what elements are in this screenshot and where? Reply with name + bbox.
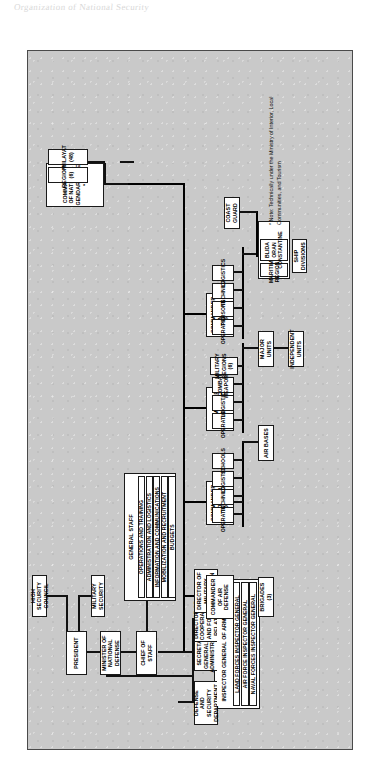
connector [234,401,243,403]
service-bus [183,183,185,653]
node-president[interactable]: PRESIDENT [66,631,87,675]
node-general-staff[interactable]: GENERAL STAFF [127,476,137,598]
connector [78,595,91,597]
footnote-text: Note: Technically under the Ministry of … [268,97,282,225]
general-staff-item[interactable]: INFORMATION AND COMMUNICATIONS [153,476,160,598]
inspector-general-item[interactable]: AIR FORCE INSPECTOR GENERAL [241,582,248,706]
general-staff-item[interactable]: ADMINISTRATION AND LOGISTICS [146,476,153,598]
node-major-units[interactable]: MAJOR UNITS [258,331,274,367]
connector [106,675,194,677]
connector [78,595,80,631]
connector [242,441,258,443]
connector [234,501,243,503]
node-military-regions[interactable]: MILITARY REGIONS (6) [210,357,238,375]
node-wilayat[interactable]: WILAYAT (48) [48,149,88,165]
connector [184,313,206,315]
scan-page-margin: Organization of National Security [0,0,380,26]
connector [158,651,184,653]
connector [178,701,193,703]
connector [234,289,243,291]
connector [146,601,148,631]
connector [234,325,243,327]
connector [184,501,206,503]
connector [234,459,243,461]
node-high-security-council[interactable]: HIGH SECURITY COUNCIL [32,575,47,617]
connector [104,183,128,185]
connector [234,419,243,421]
connector [184,407,206,409]
connector [234,495,243,497]
connector [234,307,243,309]
navy-item[interactable]: LOGISTICS [212,265,234,281]
node-ship-divisions[interactable]: SHIP DIVISIONS [292,239,307,273]
node-military-security[interactable]: MILITARY SECURITY [91,575,105,617]
connector [274,347,288,349]
node-maritime-regions-list[interactable]: BLIDA ORAN CONSTANTINE [260,239,288,261]
connector [128,183,184,185]
node-commander-of-air-defense[interactable]: COMMANDER OF AIR DEFENSE [206,575,234,619]
connector [120,651,136,653]
node-brigades[interactable]: BRIGADES (3) [258,577,274,617]
connector [234,383,243,385]
connector [104,163,106,185]
general-staff-item[interactable]: BUDGETS [168,476,175,598]
connector [234,271,243,273]
org-chart-figure: HIGH SECURITY COUNCIL PRESIDENT MILITARY… [27,50,353,750]
node-minister-of-national-defense[interactable]: MINISTER OF NATIONAL DEFENSE [100,631,121,675]
node-coast-guard[interactable]: COAST GUARD [224,197,240,229]
scan-margin-text: Organization of National Security [13,2,149,12]
connector [234,513,243,515]
inspector-general-item[interactable]: NAVAL FORCES INSPECTOR GENERAL [249,582,256,706]
connector [86,651,100,653]
node-regions[interactable]: REGIONS (6) [48,167,88,183]
inspector-general-item[interactable]: LAND FORCES INSPECTOR GENERAL [233,582,240,706]
general-staff-item[interactable]: MOBILIZATION AND RECRUITMENT [161,476,168,598]
node-air-bases[interactable]: AIR BASES [258,425,274,461]
air-force-item[interactable]: SCHOOLS [212,453,234,469]
node-independent-units[interactable]: INDEPENDENT UNITS [288,331,304,367]
node-chief-of-staff[interactable]: CHIEF OF STAFF [136,631,157,675]
connector [242,347,258,349]
rotated-figure-wrapper: HIGH SECURITY COUNCIL PRESIDENT MILITARY… [27,50,353,750]
army-item[interactable]: COMBAT WEAPONS [212,377,234,393]
connector [234,477,243,479]
connector [120,161,134,163]
footnote-marker: * [268,223,274,225]
general-staff-item[interactable]: OPERATIONS AND TRAINING [138,476,145,598]
node-defense-and-security-department[interactable]: DEFENSE AND SECURITY DEPARTMENT [194,681,218,725]
figure-footnote: * Note: Technically under the Ministry o… [268,65,284,225]
